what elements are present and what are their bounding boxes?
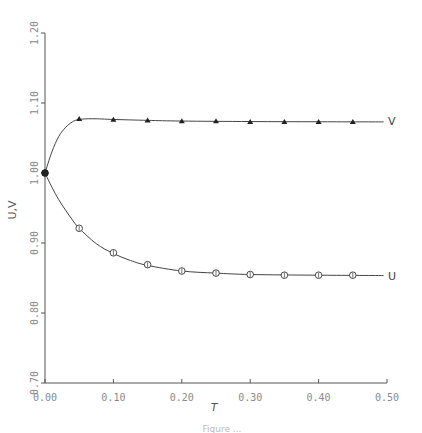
- data-series: [42, 116, 384, 278]
- axes: [45, 33, 387, 383]
- y-axis-title: U,V: [6, 200, 19, 220]
- x-tick-label: 0.50: [375, 392, 399, 403]
- series-v: [42, 116, 384, 176]
- y-tick-label: 0.70: [29, 371, 40, 395]
- triangle-marker: [213, 118, 219, 123]
- y-tick-label: 1.10: [29, 91, 40, 115]
- y-tick-label: 1.00: [29, 161, 40, 185]
- x-axis-title: T: [211, 401, 219, 414]
- start-point-marker: [42, 170, 48, 176]
- series-u: [42, 170, 384, 279]
- y-tick-label: 0.80: [29, 301, 40, 325]
- series-label-v: V: [388, 115, 396, 128]
- curve-v: [45, 119, 384, 173]
- line-chart: 0.000.100.200.300.400.50 0.700.800.901.0…: [0, 0, 422, 433]
- x-tick-label: 0.20: [170, 392, 194, 403]
- y-tick-label: 0.90: [29, 231, 40, 255]
- triangle-marker: [76, 116, 82, 121]
- y-tick-label: 1.20: [29, 21, 40, 45]
- curve-u: [45, 173, 384, 276]
- series-label-u: U: [388, 270, 396, 283]
- x-tick-label: 0.10: [101, 392, 125, 403]
- figure-caption: Figure ...: [203, 424, 242, 433]
- x-tick-label: 0.40: [307, 392, 331, 403]
- x-tick-label: 0.30: [238, 392, 262, 403]
- y-axis-ticks: 0.700.800.901.001.101.20: [29, 21, 45, 395]
